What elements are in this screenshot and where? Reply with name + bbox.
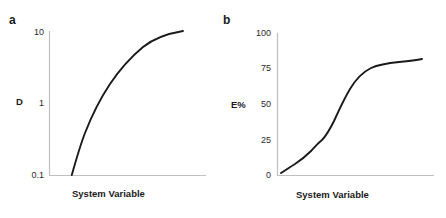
panel-a-plot [0,0,223,218]
panel-a-curve [72,31,183,175]
panel-a: a D 10 1 0.1 System Variable [0,0,223,218]
panel-b-curve [281,59,422,173]
figure-caption-strip [0,207,446,218]
panel-b: b E% 100 75 50 25 0 System Variable [223,0,446,218]
figure-container: a D 10 1 0.1 System Variable b E% 100 75… [0,0,446,218]
panel-a-x-axis-label: System Variable [72,189,145,199]
panel-b-plot [223,0,446,218]
panel-b-x-axis-label: System Variable [296,190,369,200]
